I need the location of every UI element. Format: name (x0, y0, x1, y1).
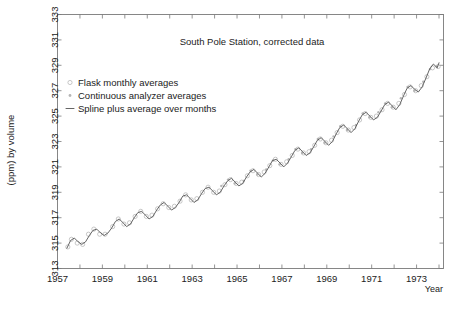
x-tick-label: 1969 (316, 273, 337, 284)
co2-chart-figure: 313315317319321323325327329331333 195719… (0, 0, 470, 312)
x-tick-label: 1959 (92, 273, 113, 284)
y-tick-label: 317 (49, 210, 60, 226)
y-tick-label: 321 (49, 159, 60, 175)
y-tick-label: 323 (49, 134, 60, 150)
continuous-marker (377, 111, 379, 113)
x-axis-title: Year (425, 284, 443, 294)
chart-legend: Flask monthly averages Continuous analyz… (66, 77, 217, 114)
x-tick-label: 1971 (361, 273, 382, 284)
x-axis-ticks (58, 15, 440, 269)
y-tick-label: 333 (49, 7, 60, 23)
x-axis-tick-labels: 195719591961196319651967196919711973 (47, 273, 427, 284)
chart-title: South Pole Station, corrected data (180, 36, 325, 47)
x-tick-label: 1973 (406, 273, 427, 284)
y-axis-title: (ppm) by volume (5, 115, 16, 186)
y-tick-label: 329 (49, 57, 60, 73)
legend-label-flask: Flask monthly averages (78, 77, 179, 88)
y-tick-label: 315 (49, 235, 60, 251)
x-tick-label: 1961 (137, 273, 158, 284)
legend-marker-open-circle (68, 80, 72, 84)
flask-marker (75, 241, 79, 245)
flask-marker (98, 232, 102, 236)
x-tick-label: 1963 (182, 273, 203, 284)
x-tick-label: 1957 (47, 273, 68, 284)
y-tick-label: 327 (49, 83, 60, 99)
y-tick-label: 331 (49, 32, 60, 48)
y-tick-label: 325 (49, 108, 60, 124)
y-axis-tick-labels: 313315317319321323325327329331333 (49, 7, 60, 277)
legend-label-continuous: Continuous analyzer averages (78, 90, 207, 101)
legend-marker-small-dot (69, 94, 72, 97)
plot-frame (58, 15, 444, 269)
x-tick-label: 1967 (271, 273, 292, 284)
legend-label-spline: Spline plus average over months (78, 103, 217, 114)
x-tick-label: 1965 (226, 273, 247, 284)
chart-svg: 313315317319321323325327329331333 195719… (0, 0, 470, 312)
y-axis-ticks (58, 15, 444, 269)
continuous-marker (220, 185, 222, 187)
y-tick-label: 319 (49, 184, 60, 200)
